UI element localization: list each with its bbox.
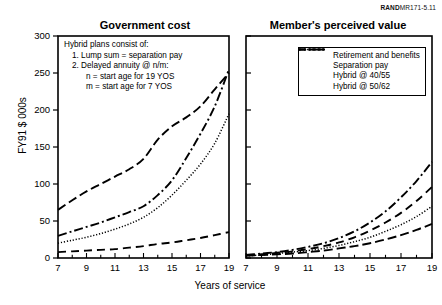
- y-tick-label: 200: [24, 104, 50, 115]
- x-tick-label: 7: [49, 262, 67, 273]
- x-tick-label: 15: [361, 262, 379, 273]
- x-tick-label: 17: [192, 262, 210, 273]
- x-tick-label: 15: [163, 262, 181, 273]
- y-tick-label: 250: [24, 67, 50, 78]
- x-tick-label: 13: [330, 262, 348, 273]
- series-line-separation-pay: [58, 232, 229, 252]
- series-line-hybrid-40-55: [246, 162, 432, 255]
- series-line-hybrid-50-62: [58, 114, 229, 244]
- x-tick-label: 9: [78, 262, 96, 273]
- x-tick-label: 7: [237, 262, 255, 273]
- x-tick-label: 13: [135, 262, 153, 273]
- x-tick-label: 11: [106, 262, 124, 273]
- x-tick-label: 17: [392, 262, 410, 273]
- y-tick-label: 150: [24, 141, 50, 152]
- x-tick-label: 9: [268, 262, 286, 273]
- series-line-retirement-and-benefits: [58, 73, 229, 210]
- y-tick-label: 300: [24, 30, 50, 41]
- axis-frame-government-cost: [58, 36, 229, 258]
- axis-frame-member-value: [246, 36, 432, 258]
- plot-surface: [0, 0, 442, 305]
- x-tick-label: 19: [220, 262, 238, 273]
- series-line-retirement-and-benefits: [246, 224, 432, 256]
- x-tick-label: 19: [423, 262, 441, 273]
- x-tick-label: 11: [299, 262, 317, 273]
- y-tick-label: 0: [24, 252, 50, 263]
- figure-container: RANDMR171-5.11 Government cost Member's …: [0, 0, 442, 305]
- y-tick-label: 50: [24, 215, 50, 226]
- y-tick-label: 100: [24, 178, 50, 189]
- series-line-hybrid-40-55: [58, 69, 229, 236]
